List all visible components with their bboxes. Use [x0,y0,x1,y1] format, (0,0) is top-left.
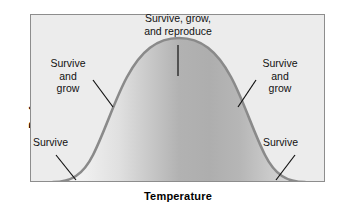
thermal-performance-curve-figure: Performance [0,0,346,213]
annotation-left-survive-and-grow: Survive and grow [36,57,100,95]
annotation-right-grow-line3: grow [248,82,312,95]
annotation-left-grow-line2: and [36,70,100,83]
plot-area [30,14,325,182]
annotation-peak-line2: and reproduce [118,25,238,38]
performance-curve-svg [31,15,325,182]
annotation-right-grow-line1: Survive [248,57,312,70]
annotation-left-grow-line3: grow [36,82,100,95]
annotation-right-survive: Survive [263,136,323,149]
annotation-right-survive-and-grow: Survive and grow [248,57,312,95]
annotation-right-survive-line1: Survive [263,136,323,149]
x-axis-label: Temperature [30,190,326,202]
annotation-peak: Survive, grow, and reproduce [118,12,238,37]
annotation-left-survive-line1: Survive [33,136,93,149]
annotation-right-grow-line2: and [248,70,312,83]
annotation-peak-line1: Survive, grow, [118,12,238,25]
annotation-left-survive: Survive [33,136,93,149]
annotation-left-grow-line1: Survive [36,57,100,70]
